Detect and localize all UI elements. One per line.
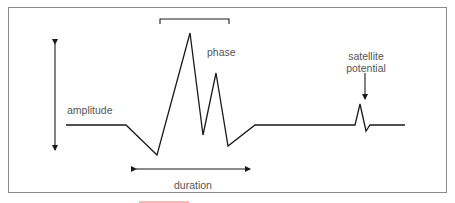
amplitude-label: amplitude bbox=[67, 104, 113, 116]
waveform-diagram bbox=[0, 0, 455, 203]
duration-label: duration bbox=[163, 179, 223, 191]
phase-label: phase bbox=[207, 46, 236, 58]
highlight-bar bbox=[139, 201, 189, 203]
phase-bracket bbox=[160, 19, 229, 24]
satellite-label-line1: satellite bbox=[340, 50, 392, 62]
satellite-label-line2: potential bbox=[340, 62, 392, 74]
